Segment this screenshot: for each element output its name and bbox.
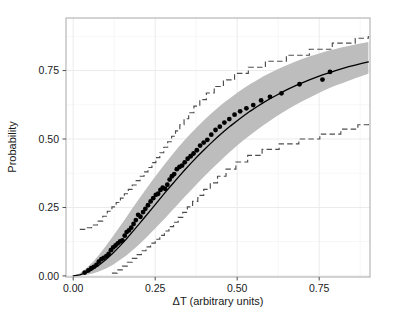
chart-figure: 0.000.250.500.75 0.000.250.500.75 ΔT (ar… (0, 0, 393, 320)
y-tick-label: 0.00 (39, 270, 60, 282)
probability-curve-chart: 0.000.250.500.75 0.000.250.500.75 ΔT (ar… (0, 0, 393, 320)
x-tick-label: 0.50 (227, 282, 248, 294)
y-tick-label: 0.25 (39, 201, 60, 213)
x-tick-label: 0.00 (63, 282, 84, 294)
x-tick-label: 0.25 (145, 282, 166, 294)
x-axis-title: ΔT (arbitrary units) (173, 295, 264, 307)
y-tick-label: 0.50 (39, 133, 60, 145)
y-tick-label: 0.75 (39, 64, 60, 76)
y-axis-title: Probability (6, 121, 18, 173)
x-tick-label: 0.75 (309, 282, 330, 294)
